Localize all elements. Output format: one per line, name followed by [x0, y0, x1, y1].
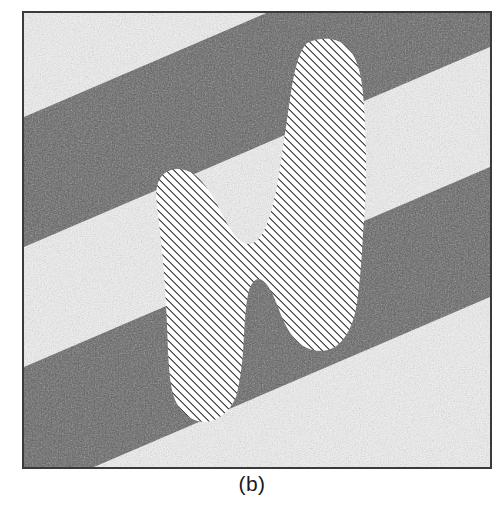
background-stripes	[24, 13, 490, 467]
figure-svg	[24, 13, 490, 467]
figure-root: (b)	[0, 0, 504, 519]
figure-caption: (b)	[0, 472, 504, 496]
figure-panel	[22, 11, 492, 469]
